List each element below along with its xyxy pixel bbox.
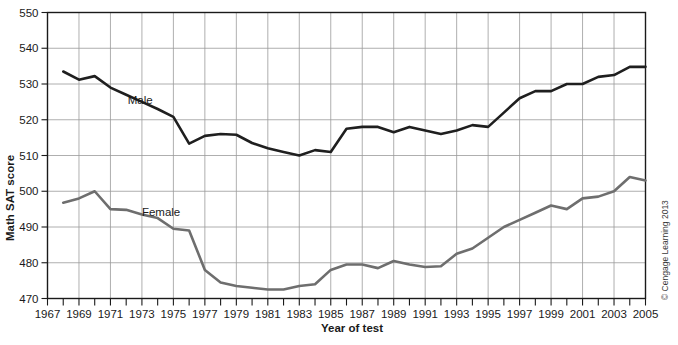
x-tick-label: 1993 <box>444 308 470 320</box>
series-label-male: Male <box>128 94 153 106</box>
x-tick-label: 1969 <box>66 308 92 320</box>
series-label-female: Female <box>142 206 180 218</box>
x-tick-label: 1999 <box>538 308 564 320</box>
y-tick-label: 470 <box>19 293 38 305</box>
y-tick-label: 510 <box>19 150 38 162</box>
x-tick-label: 2003 <box>601 308 627 320</box>
x-tick-label: 1967 <box>35 308 61 320</box>
y-axis-title: Math SAT score <box>4 155 16 241</box>
x-tick-label: 1971 <box>98 308 124 320</box>
x-tick-label: 1995 <box>475 308 501 320</box>
x-tick-label: 1985 <box>318 308 344 320</box>
x-tick-label: 1997 <box>507 308 533 320</box>
x-tick-label: 1989 <box>381 308 407 320</box>
series-line-male <box>63 67 645 156</box>
y-axis-tick-labels: 470480490500510520530540550 <box>19 7 38 305</box>
copyright-credit: © Cengage Learning 2013 <box>660 200 670 300</box>
x-tick-label: 1991 <box>412 308 438 320</box>
x-tick-label: 1973 <box>129 308 155 320</box>
x-tick-label: 1981 <box>255 308 281 320</box>
y-tick-label: 480 <box>19 257 38 269</box>
chart-canvas: 470480490500510520530540550 196719691971… <box>0 0 678 345</box>
x-tick-label: 2005 <box>633 308 659 320</box>
series-line-female <box>63 177 645 290</box>
x-axis-title: Year of test <box>321 322 383 334</box>
x-tick-label: 1977 <box>192 308 218 320</box>
axis-ticks <box>42 13 646 306</box>
sat-score-line-chart: 470480490500510520530540550 196719691971… <box>0 0 678 345</box>
x-tick-label: 1987 <box>349 308 375 320</box>
y-tick-label: 500 <box>19 185 38 197</box>
gridlines <box>48 13 646 299</box>
y-tick-label: 490 <box>19 221 38 233</box>
y-tick-label: 530 <box>19 78 38 90</box>
y-tick-label: 540 <box>19 42 38 54</box>
y-tick-label: 550 <box>19 7 38 19</box>
y-tick-label: 520 <box>19 114 38 126</box>
x-tick-label: 1979 <box>224 308 250 320</box>
x-tick-label: 2001 <box>570 308 596 320</box>
x-tick-label: 1983 <box>286 308 312 320</box>
x-tick-label: 1975 <box>161 308 187 320</box>
series-inline-labels: MaleFemale <box>128 94 181 219</box>
x-axis-tick-labels: 1967196919711973197519771979198119831985… <box>35 308 659 320</box>
